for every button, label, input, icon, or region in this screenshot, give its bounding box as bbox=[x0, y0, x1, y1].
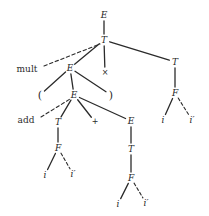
annotation-label-add: add bbox=[18, 116, 35, 125]
tree-edge-n14-n16 bbox=[61, 153, 70, 169]
tree-node-n6: E bbox=[71, 91, 78, 100]
tree-node-n2: E bbox=[67, 64, 74, 73]
tree-edge-n18-n19 bbox=[121, 183, 129, 198]
tree-node-n5: ( bbox=[38, 90, 42, 101]
edge-group bbox=[44, 21, 188, 199]
tree-node-n19: i bbox=[117, 200, 120, 209]
tree-node-n1: T bbox=[101, 36, 107, 45]
tree-edge-n18-n20 bbox=[134, 183, 143, 198]
tree-node-n11: F bbox=[172, 89, 178, 98]
tree-node-n20: i′ bbox=[144, 199, 149, 208]
tree-node-n0: E bbox=[101, 11, 108, 20]
tree-edge-n2-n6 bbox=[71, 74, 73, 89]
tree-edge-n11-n12 bbox=[165, 98, 172, 114]
tree-edge-n1-n3 bbox=[104, 46, 105, 67]
annotation-leader-group bbox=[41, 44, 100, 117]
tree-node-n10: E bbox=[128, 117, 135, 126]
tree-edge-n11-n13 bbox=[178, 98, 189, 115]
tree-edge-n2-n5 bbox=[44, 72, 65, 91]
tree-edge-n14-n15 bbox=[48, 153, 56, 169]
tree-edges-layer bbox=[0, 0, 209, 216]
tree-node-n16: i′ bbox=[71, 170, 76, 179]
tree-node-n14: F bbox=[55, 144, 61, 153]
tree-edge-n6-n10 bbox=[79, 97, 125, 118]
tree-node-n3: × bbox=[102, 69, 109, 77]
tree-node-n9: + bbox=[92, 118, 99, 126]
tree-node-n18: F bbox=[128, 174, 134, 183]
tree-node-n7: ) bbox=[109, 90, 113, 101]
tree-edge-n1-n4 bbox=[110, 42, 170, 60]
tree-node-n12: i bbox=[162, 116, 165, 125]
tree-edge-n1-n2 bbox=[75, 44, 100, 64]
tree-node-n8: T bbox=[55, 118, 61, 127]
tree-node-n15: i bbox=[44, 171, 47, 180]
tree-node-n17: T bbox=[128, 145, 134, 154]
annotation-label-mult: mult bbox=[17, 65, 38, 74]
tree-edge-n6-n8 bbox=[61, 100, 71, 117]
parse-tree-figure: ETE×T(E)T+EFii′Fii′TFii′ multadd bbox=[0, 0, 209, 216]
tree-node-n4: T bbox=[172, 58, 178, 67]
tree-node-n13: i′ bbox=[190, 116, 195, 125]
